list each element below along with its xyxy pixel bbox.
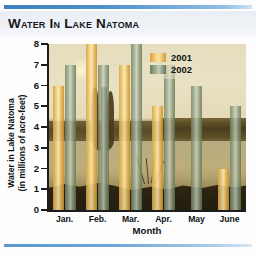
bar-group bbox=[48, 44, 81, 210]
y-tick-label: 4 bbox=[26, 122, 39, 132]
x-tick-label: June bbox=[213, 214, 246, 224]
top-rule-divider bbox=[4, 5, 252, 9]
y-tick-label: 6 bbox=[26, 81, 39, 91]
y-axis-title-line2: (in millions of acre-feet) bbox=[16, 95, 27, 192]
x-tick-label: Feb. bbox=[81, 214, 114, 224]
y-tick-mark bbox=[41, 209, 48, 211]
y-tick-mark bbox=[41, 105, 48, 107]
bar-2001-Feb bbox=[86, 44, 97, 210]
y-tick-mark bbox=[41, 43, 48, 45]
legend-item-2001: 2001 bbox=[150, 52, 192, 63]
legend: 2001 2002 bbox=[146, 48, 197, 79]
legend-item-2002: 2002 bbox=[150, 64, 192, 75]
legend-label-2001: 2001 bbox=[171, 53, 192, 63]
bar-2002-Feb bbox=[98, 65, 109, 210]
bar-2001-Jan bbox=[53, 86, 64, 211]
y-tick-mark bbox=[41, 64, 48, 66]
y-tick-mark bbox=[41, 168, 48, 170]
y-tick-label: 0 bbox=[26, 205, 39, 215]
bar-2002-June bbox=[230, 106, 241, 210]
y-tick-mark bbox=[41, 147, 48, 149]
y-tick-label: 1 bbox=[26, 184, 39, 194]
y-tick-mark bbox=[41, 126, 48, 128]
y-tick-label: 8 bbox=[26, 39, 39, 49]
bar-2002-Jan bbox=[65, 65, 76, 210]
bar-2002-May bbox=[191, 86, 202, 211]
y-tick-label: 3 bbox=[26, 143, 39, 153]
x-tick-label: Jan. bbox=[48, 214, 81, 224]
y-axis-title-line1: Water in Lake Natoma bbox=[6, 95, 17, 192]
x-tick-label: May bbox=[180, 214, 213, 224]
x-tick-label: Apr. bbox=[147, 214, 180, 224]
page-title: Water In Lake Natoma bbox=[8, 14, 248, 34]
bottom-rule-divider bbox=[4, 244, 252, 247]
y-tick-label: 5 bbox=[26, 101, 39, 111]
legend-swatch-2001 bbox=[150, 53, 166, 62]
legend-label-2002: 2002 bbox=[171, 65, 192, 75]
x-tick-label: Mar. bbox=[114, 214, 147, 224]
y-tick-mark bbox=[41, 85, 48, 87]
bar-group bbox=[114, 44, 147, 210]
bar-2001-June bbox=[218, 169, 229, 211]
y-tick-label: 2 bbox=[26, 164, 39, 174]
bar-2001-Apr bbox=[152, 106, 163, 210]
y-tick-label: 7 bbox=[26, 60, 39, 70]
x-axis-line bbox=[47, 210, 246, 212]
legend-swatch-2002 bbox=[150, 65, 166, 74]
bar-2002-Apr bbox=[164, 65, 175, 210]
bar-group bbox=[213, 44, 246, 210]
chart-container: Water in Lake Natoma (in millions of acr… bbox=[0, 38, 256, 234]
figure-root: Water In Lake Natoma Water in Lake Natom… bbox=[0, 0, 256, 256]
x-axis-title: Month bbox=[48, 225, 246, 236]
bar-group bbox=[81, 44, 114, 210]
y-tick-mark bbox=[41, 188, 48, 190]
bar-2002-Mar bbox=[131, 44, 142, 210]
bar-2001-Mar bbox=[119, 65, 130, 210]
